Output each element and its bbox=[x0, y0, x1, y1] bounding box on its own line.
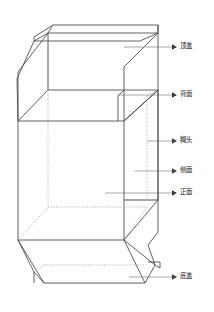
side-face-panel bbox=[124, 90, 158, 200]
interior-hidden-diagonal-right bbox=[124, 207, 147, 240]
label-bottom-lid: 底盖 bbox=[180, 273, 192, 280]
right-upper-small-flap bbox=[118, 90, 124, 121]
bottom-lid-left-corner bbox=[34, 272, 44, 283]
leader-bottom-lid bbox=[129, 274, 177, 280]
left-upper-bevel-outer bbox=[17, 41, 34, 121]
top-lid-top-edge bbox=[48, 25, 158, 33]
left-upper-bevel bbox=[18, 33, 48, 121]
leader-back-face bbox=[118, 92, 177, 98]
bottom-left-diagonal bbox=[18, 240, 44, 283]
bottom-right-side-flap bbox=[148, 200, 158, 245]
back-face-panel bbox=[48, 25, 158, 90]
leader-top-lid bbox=[124, 44, 177, 50]
label-glue-flap: 糊头 bbox=[180, 137, 192, 144]
upper-bevel-panels bbox=[17, 33, 158, 121]
right-upper-bevel-upper bbox=[124, 33, 158, 67]
label-front-face: 正面 bbox=[180, 189, 192, 196]
bottom-right-tuck-triangle bbox=[124, 240, 155, 283]
leader-front-face bbox=[105, 190, 177, 196]
label-side-face: 侧面 bbox=[180, 167, 192, 174]
leader-side-face bbox=[135, 168, 177, 174]
leader-glue-flap bbox=[147, 138, 177, 144]
left-upper-bevel-lower bbox=[18, 90, 48, 121]
bottom-left-bevel bbox=[18, 240, 34, 283]
top-lid-panel bbox=[34, 25, 158, 41]
top-lid-front-band bbox=[34, 33, 158, 41]
interior-hidden-diagonal-left bbox=[18, 207, 48, 240]
glue-flap-panel bbox=[124, 90, 158, 200]
leader-lines-group bbox=[105, 44, 177, 280]
bottom-lid-panel bbox=[18, 200, 160, 283]
label-top-lid: 顶盖 bbox=[180, 43, 192, 50]
box-body bbox=[18, 90, 158, 240]
bottom-right-diagonal-upper bbox=[124, 200, 158, 240]
label-back-face: 背面 bbox=[180, 91, 192, 98]
box-structure-diagram: 顶盖 背面 糊头 侧面 正面 底盖 bbox=[0, 0, 214, 312]
